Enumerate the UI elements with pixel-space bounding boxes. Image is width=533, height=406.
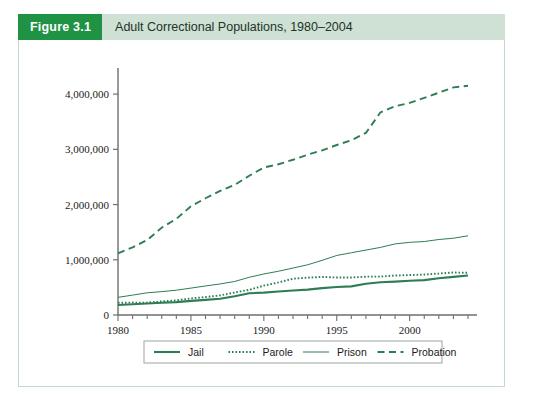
- figure-header: Figure 3.1 Adult Correctional Population…: [18, 14, 505, 40]
- chart-legend: JailParolePrisonProbation: [144, 341, 457, 363]
- axis-lines: [118, 68, 477, 315]
- y-tick-label: 3,000,000: [65, 143, 110, 155]
- x-tick-label: 1995: [326, 324, 349, 336]
- figure-title: Adult Correctional Populations, 1980–200…: [102, 14, 353, 40]
- x-tick-label: 1980: [107, 324, 130, 336]
- legend-label-probation: Probation: [412, 346, 457, 358]
- legend-label-parole: Parole: [263, 346, 294, 358]
- x-tick-label: 2000: [399, 324, 422, 336]
- line-chart: 01,000,0002,000,0003,000,0004,000,000 19…: [18, 40, 505, 387]
- y-tick-label: 4,000,000: [65, 88, 110, 100]
- y-axis-ticks: [113, 94, 118, 315]
- series-line-parole: [118, 273, 468, 303]
- x-axis-tick-labels: 19801985199019952000: [107, 324, 421, 336]
- x-axis-ticks: [118, 315, 468, 321]
- screenshot-root: Figure 3.1 Adult Correctional Population…: [0, 0, 533, 406]
- y-tick-label: 0: [104, 309, 110, 321]
- y-axis-tick-labels: 01,000,0002,000,0003,000,0004,000,000: [65, 88, 110, 321]
- legend-label-jail: Jail: [188, 346, 204, 358]
- data-series-group: [118, 86, 468, 305]
- legend-label-prison: Prison: [337, 346, 367, 358]
- series-line-probation: [118, 86, 468, 254]
- series-line-prison: [118, 236, 468, 298]
- x-tick-label: 1990: [253, 324, 276, 336]
- x-tick-label: 1985: [180, 324, 203, 336]
- figure-number-badge: Figure 3.1: [18, 14, 102, 40]
- chart-plot-container: 01,000,0002,000,0003,000,0004,000,000 19…: [18, 40, 505, 387]
- y-tick-label: 1,000,000: [65, 254, 110, 266]
- y-tick-label: 2,000,000: [65, 199, 110, 211]
